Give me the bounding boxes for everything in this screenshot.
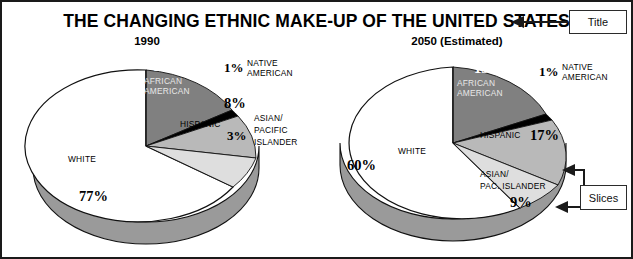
- pie-2050-title: 2050 (Estimated): [372, 35, 542, 47]
- pie-1990-african-american-value: 11%: [153, 58, 181, 75]
- pie-1990-white-label: WHITE: [68, 154, 96, 164]
- ap-line2-1990: PACIFIC: [254, 124, 298, 136]
- pie-2050-hispanic-value: 17%: [530, 127, 559, 144]
- pie-1990-native-american-value: 1%: [224, 60, 244, 76]
- title-callout-box[interactable]: Title: [569, 10, 627, 34]
- pie-2050-white-value: 60%: [347, 157, 376, 174]
- pie-2050-native-american-label: NATIVE AMERICAN: [562, 62, 608, 82]
- pie-1990-hispanic-value: 8%: [224, 95, 246, 112]
- aa-line2-1990: AMERICAN: [144, 86, 190, 96]
- pie-1990-asian-pacific-label: ASIAN/ PACIFIC ISLANDER: [254, 112, 298, 148]
- slices-callout-box[interactable]: Slices: [580, 185, 627, 210]
- pie-1990-asian-pacific-value: 3%: [227, 128, 247, 144]
- pie-2050-white-label: WHITE: [398, 146, 426, 156]
- na-line2-2050: AMERICAN: [562, 72, 608, 82]
- pie-2050-hispanic-label: HISPANIC: [480, 130, 521, 140]
- aa-line1-1990: AFRICAN: [144, 76, 190, 86]
- aa-line2-2050: AMERICAN: [457, 88, 503, 98]
- pie-2050-asian-pacific-value: 9%: [510, 194, 532, 211]
- na-line1-1990: NATIVE: [247, 58, 293, 68]
- na-line1-2050: NATIVE: [562, 62, 608, 72]
- pie-1990-white-value: 77%: [79, 188, 108, 205]
- ap-line1-1990: ASIAN/: [254, 112, 298, 124]
- pie-2050-native-american-value: 1%: [539, 64, 559, 80]
- figure-frame: THE CHANGING ETHNIC MAKE-UP OF THE UNITE…: [0, 0, 633, 259]
- pie-1990-native-american-label: NATIVE AMERICAN: [247, 58, 293, 78]
- ap-line1-2050: ASIAN/: [480, 168, 546, 180]
- pie-2050-african-american-value: 13%: [474, 60, 503, 77]
- pie-1990-title: 1990: [62, 35, 232, 47]
- ap-line2-2050: PAC. ISLANDER: [480, 180, 546, 192]
- aa-line1-2050: AFRICAN: [457, 78, 503, 88]
- pie-1990-hispanic-label: HISPANIC: [180, 119, 221, 129]
- pie-1990-african-american-label: AFRICAN AMERICAN: [144, 76, 190, 96]
- ap-line3-1990: ISLANDER: [254, 136, 298, 148]
- na-line2-1990: AMERICAN: [247, 68, 293, 78]
- pie-2050-african-american-label: AFRICAN AMERICAN: [457, 78, 503, 98]
- pie-2050-asian-pacific-label: ASIAN/ PAC. ISLANDER: [480, 168, 546, 192]
- title-callout-arrow: [510, 12, 570, 32]
